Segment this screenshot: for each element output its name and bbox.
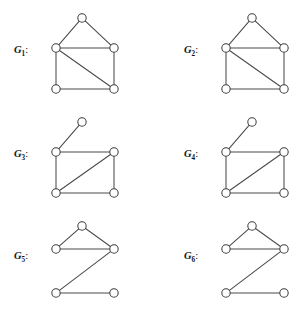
graph-label-g6: G6: [184,250,198,264]
nodes-group [222,14,288,93]
graph-vertex-left-mid [222,148,230,156]
graph-vertex-bottom-right [280,85,288,93]
graph-edge [85,21,111,46]
graph-g3: G3: [14,118,118,197]
graph-edge [229,125,250,149]
graph-edge [229,50,281,87]
graph-vertex-bottom-left [222,85,230,93]
graph-g4: G4: [184,118,288,197]
graph-label-g4: G4: [184,148,198,162]
graph-vertex-left-mid [52,148,60,156]
graph-vertex-left-mid [222,245,230,253]
graph-edge [59,251,111,290]
graph-vertex-apex [78,222,86,230]
graph-vertex-right-mid [110,245,118,253]
graph-vertex-pendant [78,118,86,126]
graph-figure: G1:G2:G3:G4:G5:G6: [0,0,299,315]
graph-edge [59,50,111,87]
graph-edge [229,21,250,45]
graph-edge [85,228,111,246]
graphs-layer: G1:G2:G3:G4:G5:G6: [14,14,288,297]
graph-vertex-apex [248,222,256,230]
graph-g5: G5: [14,222,118,297]
graph-vertex-right-mid [280,245,288,253]
graph-vertex-apex [78,14,86,22]
edges-group [226,125,284,193]
graph-vertex-bottom-left [52,189,60,197]
graph-vertex-bottom-right [110,289,118,297]
graph-label-g3: G3: [14,148,28,162]
graph-vertex-left-mid [52,44,60,52]
graph-edge [255,21,281,46]
graph-vertex-left-mid [222,44,230,52]
graph-vertex-apex [248,14,256,22]
graph-vertex-bottom-right [280,289,288,297]
graph-vertex-bottom-right [110,85,118,93]
graph-vertex-right-mid [110,44,118,52]
graph-label-g2: G2: [184,44,198,58]
edges-group [229,228,281,293]
graph-edge [59,154,111,191]
graph-vertex-bottom-left [52,85,60,93]
graph-label-g1: G1: [14,44,28,58]
edges-group [59,228,111,293]
graph-vertex-bottom-left [222,289,230,297]
graph-vertex-right-mid [280,148,288,156]
graph-vertex-bottom-right [280,189,288,197]
graph-vertex-bottom-left [222,189,230,197]
graph-g6: G6: [184,222,288,297]
edges-group [56,125,114,193]
graph-edge [59,229,79,247]
graph-vertex-left-mid [52,245,60,253]
nodes-group [222,118,288,197]
graph-vertex-right-mid [280,44,288,52]
edges-group [226,21,284,89]
graph-edge [229,229,249,247]
graph-vertex-bottom-right [110,189,118,197]
nodes-group [52,222,118,297]
graph-g1: G1: [14,14,118,93]
figure-canvas: G1:G2:G3:G4:G5:G6: [0,0,299,315]
graph-label-g5: G5: [14,250,28,264]
nodes-group [52,118,118,197]
edges-group [56,21,114,89]
graph-edge [229,154,281,191]
graph-edge [255,228,281,246]
graph-vertex-right-mid [110,148,118,156]
graph-g2: G2: [184,14,288,93]
graph-vertex-pendant [248,118,256,126]
nodes-group [52,14,118,93]
graph-edge [59,125,80,149]
graph-vertex-bottom-left [52,289,60,297]
nodes-group [222,222,288,297]
graph-edge [59,21,80,45]
graph-edge [229,251,281,290]
